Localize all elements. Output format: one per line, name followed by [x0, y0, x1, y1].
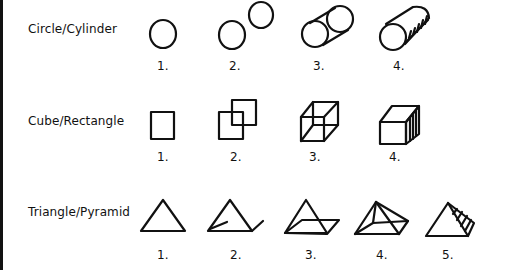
triangle-icon [141, 200, 185, 231]
wireframe-cylinder-icon [302, 6, 353, 47]
solid-cube-icon [380, 106, 419, 144]
solid-cylinder-icon [380, 7, 429, 50]
two-circles-icon [219, 2, 273, 49]
shapes-canvas [0, 0, 505, 270]
wireframe-cube-icon [301, 102, 338, 141]
two-squares-icon [219, 100, 256, 139]
wireframe-pyramid-icon [355, 202, 408, 234]
circle-icon [150, 20, 176, 48]
square-icon [151, 112, 174, 139]
triangle-edges-icon [208, 200, 263, 231]
solid-pyramid-icon [426, 203, 474, 236]
triangle-base-icon [285, 200, 339, 234]
